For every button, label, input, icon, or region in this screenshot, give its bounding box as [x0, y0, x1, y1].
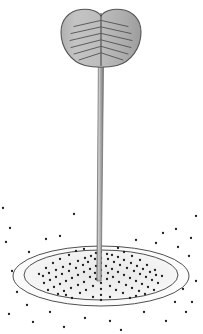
- stipple-dot: [100, 288, 102, 290]
- stipple-dot: [71, 277, 73, 279]
- stipple-dot: [92, 285, 94, 287]
- stipple-dot: [47, 289, 49, 291]
- stipple-dot: [129, 277, 131, 279]
- stray-dot: [32, 321, 34, 323]
- stipple-dot: [144, 293, 146, 295]
- stipple-dot: [141, 283, 143, 285]
- stipple-dot: [139, 259, 141, 261]
- stray-dot: [11, 270, 13, 272]
- stipple-dot: [111, 268, 113, 270]
- stray-dot: [185, 311, 187, 313]
- stipple-dot: [100, 282, 102, 284]
- stray-dot: [63, 326, 65, 328]
- stipple-dot: [65, 294, 67, 296]
- stray-dot: [8, 313, 10, 315]
- stray-dot: [143, 311, 145, 313]
- stray-dot: [49, 311, 51, 313]
- stipple-dot: [125, 284, 127, 286]
- stipple-dot: [61, 273, 63, 275]
- stipple-dot: [139, 273, 141, 275]
- stipple-dot: [92, 296, 94, 298]
- stipple-dot: [49, 279, 51, 281]
- stipple-dot: [90, 255, 92, 257]
- stipple-dot: [55, 269, 57, 271]
- stipple-dot: [115, 289, 117, 291]
- stipple-dot: [100, 299, 102, 301]
- stray-dot: [191, 301, 193, 303]
- stipple-dot: [147, 286, 149, 288]
- stipple-dot: [133, 270, 135, 272]
- stipple-dot: [130, 262, 132, 264]
- stipple-dot: [153, 289, 155, 291]
- stipple-dot: [69, 263, 71, 265]
- stray-dot: [26, 304, 28, 306]
- stray-dot: [59, 235, 61, 237]
- stipple-dot: [142, 268, 144, 270]
- stipple-dot: [87, 261, 89, 263]
- stipple-dot: [117, 271, 119, 273]
- stipple-dot: [113, 261, 115, 263]
- stray-dot: [177, 246, 179, 248]
- stray-dot: [5, 241, 7, 243]
- stipple-dot: [52, 262, 54, 264]
- stipple-dot: [109, 296, 111, 298]
- stipple-dot: [123, 259, 125, 261]
- stipple-dot: [109, 285, 111, 287]
- stipple-dot: [94, 258, 96, 260]
- stipple-dot: [63, 290, 65, 292]
- stipple-dot: [123, 251, 125, 253]
- stipple-dot: [57, 293, 59, 295]
- stray-dot: [45, 238, 47, 240]
- stray-dot: [16, 291, 18, 293]
- stipple-dot: [161, 275, 163, 277]
- stipple-dot: [154, 269, 156, 271]
- stipple-dot: [59, 258, 61, 260]
- stipple-dot: [45, 267, 47, 269]
- stipple-dot: [77, 260, 79, 262]
- stipple-dot: [118, 281, 120, 283]
- stray-dot: [175, 228, 177, 230]
- stipple-dot: [155, 274, 157, 276]
- stipple-dot: [68, 254, 70, 256]
- stray-dot: [188, 255, 190, 257]
- stipple-dot: [117, 256, 119, 258]
- stray-dot: [165, 320, 167, 322]
- stipple-dot: [83, 271, 85, 273]
- stipple-dot: [135, 295, 137, 297]
- stipple-dot: [119, 264, 121, 266]
- stipple-dot: [84, 257, 86, 259]
- leaf-dispersal-diagram: [0, 0, 203, 334]
- stipple-dot: [131, 287, 133, 289]
- stipple-dot: [77, 274, 79, 276]
- stray-dot: [2, 207, 4, 209]
- stipple-dot: [111, 254, 113, 256]
- stray-dot: [195, 280, 197, 282]
- stipple-dot: [62, 266, 64, 268]
- stipple-dot: [145, 276, 147, 278]
- stipple-dot: [117, 247, 119, 249]
- stray-dot: [135, 239, 137, 241]
- stipple-dot: [79, 292, 81, 294]
- cordate-leaf-blade: [61, 9, 141, 67]
- stray-dot: [28, 251, 30, 253]
- stipple-dot: [38, 273, 40, 275]
- stipple-dot: [146, 264, 148, 266]
- stipple-dot: [105, 265, 107, 267]
- stray-dot: [73, 213, 75, 215]
- stipple-dot: [136, 265, 138, 267]
- stipple-dot: [42, 275, 44, 277]
- stipple-dot: [151, 279, 153, 281]
- stipple-dot: [55, 276, 57, 278]
- stipple-dot: [70, 287, 72, 289]
- stipple-dot: [85, 289, 87, 291]
- stipple-dot: [149, 271, 151, 273]
- stray-dot: [162, 232, 164, 234]
- stray-dot: [120, 329, 122, 331]
- stray-dot: [9, 227, 11, 229]
- stipple-dot: [68, 270, 70, 272]
- stipple-dot: [107, 258, 109, 260]
- figure-root: [0, 0, 203, 334]
- stipple-dot: [89, 268, 91, 270]
- stipple-dot: [71, 297, 73, 299]
- stipple-dot: [138, 290, 140, 292]
